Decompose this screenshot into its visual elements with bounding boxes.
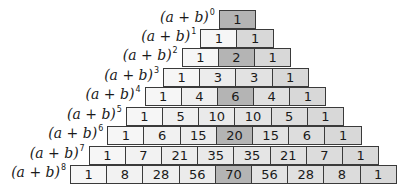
coefficient-cell: 1 [145,87,182,106]
binomial-label-1: (a + b)1 [141,27,196,44]
binomial-base: (a + b) [67,106,116,122]
coefficient-cell: 1 [254,48,291,67]
coefficient-cell: 56 [179,165,216,184]
coefficient-cell: 21 [161,146,198,165]
binomial-base: (a + b) [11,164,60,180]
triangle-row-7: 172135352171 [89,146,379,165]
binomial-base: (a + b) [123,47,172,63]
binomial-base: (a + b) [86,86,135,102]
binomial-base: (a + b) [104,67,153,83]
coefficient-cell: 1 [219,10,256,29]
coefficient-cell: 1 [272,68,309,87]
binomial-exponent: 5 [117,105,122,114]
coefficient-cell: 28 [287,165,324,184]
triangle-row-3: 1331 [163,68,308,87]
triangle-row-5: 15101051 [126,107,343,126]
binomial-label-7: (a + b)7 [30,144,85,161]
coefficient-cell: 15 [180,126,217,145]
binomial-base: (a + b) [141,28,190,44]
coefficient-cell: 4 [181,87,218,106]
coefficient-cell: 20 [216,126,253,145]
coefficient-cell: 56 [251,165,288,184]
binomial-label-5: (a + b)5 [67,105,122,122]
coefficient-cell: 3 [235,68,272,87]
coefficient-cell: 2 [218,48,255,67]
coefficient-cell: 5 [271,107,308,126]
coefficient-cell: 7 [306,146,343,165]
coefficient-cell: 6 [143,126,180,145]
coefficient-cell: 10 [234,107,271,126]
coefficient-cell: 1 [307,107,344,126]
triangle-row-0: 1 [219,10,255,29]
coefficient-cell: 10 [198,107,235,126]
coefficient-cell: 21 [270,146,307,165]
binomial-exponent: 8 [61,163,66,172]
triangle-row-2: 121 [182,48,291,67]
triangle-row-1: 11 [200,29,272,48]
triangle-row-8: 18285670562881 [70,165,396,184]
coefficient-cell: 5 [162,107,199,126]
binomial-label-8: (a + b)8 [11,163,66,180]
coefficient-cell: 8 [106,165,143,184]
coefficient-cell: 8 [323,165,360,184]
coefficient-cell: 70 [215,165,252,184]
coefficient-cell: 6 [217,87,254,106]
binomial-label-0: (a + b)0 [160,8,215,25]
coefficient-cell: 1 [126,107,163,126]
binomial-exponent: 7 [80,144,85,153]
binomial-label-3: (a + b)3 [104,66,159,83]
pascal-triangle-diagram: 1(a + b)011(a + b)1121(a + b)21331(a + b… [0,0,419,189]
binomial-exponent: 1 [191,27,196,36]
binomial-label-4: (a + b)4 [86,85,141,102]
binomial-exponent: 4 [135,85,140,94]
triangle-row-6: 1615201561 [107,126,360,145]
binomial-exponent: 0 [210,8,215,17]
coefficient-cell: 3 [199,68,236,87]
binomial-exponent: 2 [173,46,178,55]
binomial-label-2: (a + b)2 [123,46,178,63]
binomial-base: (a + b) [30,145,79,161]
binomial-exponent: 3 [154,66,159,75]
binomial-base: (a + b) [48,125,97,141]
triangle-row-4: 14641 [145,87,326,106]
coefficient-cell: 7 [125,146,162,165]
coefficient-cell: 4 [253,87,290,106]
coefficient-cell: 1 [236,29,273,48]
coefficient-cell: 6 [288,126,325,145]
coefficient-cell: 1 [107,126,144,145]
coefficient-cell: 1 [89,146,126,165]
coefficient-cell: 1 [200,29,237,48]
coefficient-cell: 1 [182,48,219,67]
binomial-base: (a + b) [160,9,209,25]
coefficient-cell: 1 [163,68,200,87]
coefficient-cell: 1 [360,165,397,184]
coefficient-cell: 35 [233,146,270,165]
coefficient-cell: 35 [197,146,234,165]
binomial-label-6: (a + b)6 [48,124,103,141]
coefficient-cell: 28 [142,165,179,184]
coefficient-cell: 15 [252,126,289,145]
coefficient-cell: 1 [70,165,107,184]
coefficient-cell: 1 [324,126,361,145]
coefficient-cell: 1 [289,87,326,106]
coefficient-cell: 1 [342,146,379,165]
binomial-exponent: 6 [98,124,103,133]
